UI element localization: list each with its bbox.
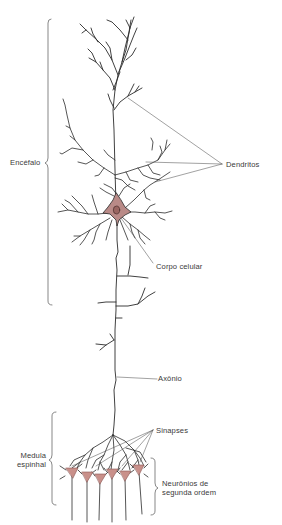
axon [96, 224, 155, 435]
sinapses-leader-2 [96, 430, 153, 466]
label-dendritos: Dendritos [226, 160, 259, 169]
label-corpo-celular: Corpo celular [156, 262, 202, 271]
axonio-leader [117, 377, 157, 379]
corpo-celular-leader [121, 218, 153, 263]
right-oblique-dendrites [115, 138, 170, 190]
left-oblique-dendrites [60, 99, 115, 176]
label-axonio: Axônio [158, 374, 182, 383]
dendritos-leader-1 [128, 98, 222, 164]
segunda-ordem-bracket [151, 458, 158, 515]
label-encefalo: Encéfalo [10, 158, 40, 167]
label-neuronios-segunda-ordem: Neurônios de segunda ordem [162, 479, 216, 497]
dendritos-leader-2 [146, 162, 222, 164]
label-medula-espinhal: Medula espinhal [14, 451, 46, 469]
medula-bracket [49, 412, 56, 505]
dendritos-leader-3 [155, 164, 222, 182]
label-sinapses: Sinapses [156, 426, 188, 435]
neuron-diagram [0, 0, 282, 525]
leader-lines [72, 98, 222, 466]
encefalo-bracket [45, 19, 52, 305]
apical-dendrites [80, 17, 142, 205]
